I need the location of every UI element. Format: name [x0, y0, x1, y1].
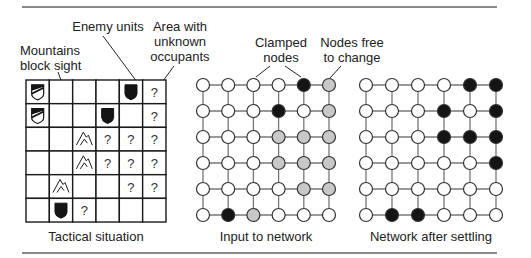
node-off: [412, 79, 425, 92]
node-off: [490, 183, 503, 196]
node-free: [323, 183, 336, 196]
unknown-marker: ?: [151, 132, 158, 147]
grid-cell: ?: [143, 151, 166, 175]
node-off: [247, 157, 260, 170]
node-off: [222, 183, 235, 196]
node-off: [197, 183, 210, 196]
node-free: [272, 131, 285, 144]
node-off: [247, 79, 260, 92]
node-off: [197, 79, 210, 92]
node-free: [323, 157, 336, 170]
grid-cell: [96, 175, 119, 199]
node-on: [464, 79, 477, 92]
node-on: [386, 209, 399, 222]
node-off: [386, 105, 399, 118]
unknown-marker: ?: [104, 156, 111, 171]
node-on: [490, 131, 503, 144]
network-edges: [203, 85, 329, 215]
node-off: [412, 183, 425, 196]
node-off: [438, 183, 451, 196]
settled-network: [360, 79, 503, 222]
enemy-unit-icon: [102, 109, 114, 124]
diagram-canvas: ???????????: [0, 0, 531, 258]
unknown-marker: ?: [151, 180, 158, 195]
node-off: [360, 79, 373, 92]
friendly-unit-icon: [32, 85, 44, 100]
node-off: [360, 183, 373, 196]
grid-cell: [96, 80, 119, 104]
leader-clamped-2: [285, 66, 301, 77]
node-off: [222, 105, 235, 118]
unknown-marker: ?: [104, 132, 111, 147]
grid-cell: [73, 175, 96, 199]
node-off: [412, 105, 425, 118]
node-off: [360, 131, 373, 144]
grid-cell: [49, 80, 72, 104]
node-on: [438, 105, 451, 118]
node-off: [272, 79, 285, 92]
grid-cell: ?: [143, 127, 166, 151]
node-off: [323, 209, 336, 222]
node-off: [360, 157, 373, 170]
node-off: [222, 157, 235, 170]
grid-cell: ?: [119, 151, 142, 175]
node-off: [247, 131, 260, 144]
node-off: [197, 157, 210, 170]
grid-cell: [119, 198, 142, 222]
node-on: [490, 105, 503, 118]
grid-cell: ?: [73, 198, 96, 222]
leader-clamped-1: [256, 66, 270, 77]
node-off: [272, 183, 285, 196]
grid-cell: [26, 198, 49, 222]
input-network: [197, 79, 336, 222]
grid-cell: [49, 127, 72, 151]
enemy-unit-icon: [125, 85, 137, 100]
grid-cell: ?: [96, 151, 119, 175]
node-off: [197, 131, 210, 144]
node-on: [464, 131, 477, 144]
network-edges: [366, 85, 496, 215]
grid-cell: ?: [143, 175, 166, 199]
node-off: [297, 209, 310, 222]
node-off: [464, 183, 477, 196]
node-free: [297, 157, 310, 170]
grid-cell: ?: [96, 127, 119, 151]
node-off: [272, 209, 285, 222]
grid-cell: [26, 127, 49, 151]
unknown-marker: ?: [127, 180, 134, 195]
grid-cell: [96, 198, 119, 222]
node-on: [490, 157, 503, 170]
node-free: [247, 209, 260, 222]
node-free: [297, 183, 310, 196]
unknown-marker: ?: [127, 156, 134, 171]
node-off: [297, 105, 310, 118]
grid-cell: [73, 80, 96, 104]
node-off: [360, 209, 373, 222]
grid-cell: [49, 198, 72, 222]
grid-cell: [26, 151, 49, 175]
enemy-unit-icon: [55, 203, 67, 218]
grid-cell: [119, 104, 142, 128]
tactical-grid: ???????????: [26, 80, 166, 222]
grid-cell: [26, 175, 49, 199]
friendly-unit-icon: [32, 109, 44, 124]
node-on: [222, 209, 235, 222]
node-off: [386, 157, 399, 170]
node-free: [323, 105, 336, 118]
node-on: [438, 131, 451, 144]
grid-cell: [119, 80, 142, 104]
grid-cell: [96, 104, 119, 128]
node-free: [323, 131, 336, 144]
grid-cell: [73, 104, 96, 128]
node-off: [386, 79, 399, 92]
node-on: [490, 79, 503, 92]
grid-cell: [49, 175, 72, 199]
node-free: [297, 131, 310, 144]
grid-cell: ?: [119, 175, 142, 199]
grid-cell: [26, 104, 49, 128]
node-off: [412, 157, 425, 170]
node-off: [197, 209, 210, 222]
node-off: [386, 131, 399, 144]
grid-cell: [143, 198, 166, 222]
grid-cell: [49, 104, 72, 128]
